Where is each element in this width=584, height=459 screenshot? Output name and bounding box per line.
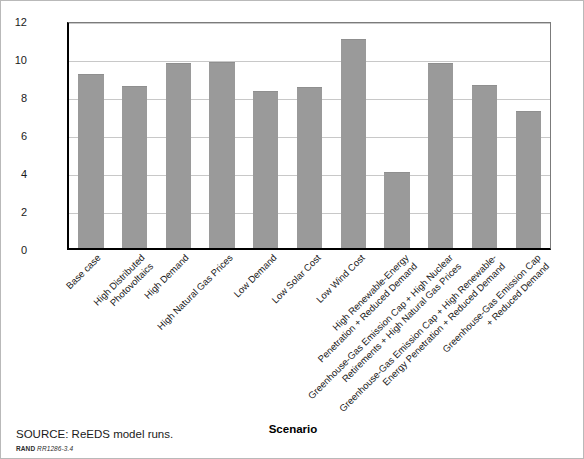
bar-slot bbox=[113, 23, 157, 248]
bar-series bbox=[69, 23, 550, 248]
figure-container: Percentage change 024681012 Base caseHig… bbox=[0, 0, 584, 459]
bar[interactable] bbox=[428, 63, 453, 248]
bar[interactable] bbox=[78, 74, 103, 248]
bar-slot bbox=[200, 23, 244, 248]
bar[interactable] bbox=[297, 87, 322, 249]
rand-report-number: RR1286-3.4 bbox=[37, 445, 73, 452]
bar[interactable] bbox=[516, 111, 541, 248]
bar-slot bbox=[69, 23, 113, 248]
plot-area bbox=[67, 22, 551, 250]
bar[interactable] bbox=[122, 86, 147, 248]
y-axis-tick-label: 10 bbox=[0, 54, 27, 66]
bar[interactable] bbox=[209, 62, 234, 248]
bar[interactable] bbox=[166, 63, 191, 248]
y-axis-tick-label: 6 bbox=[0, 130, 27, 142]
y-axis-tick-label: 0 bbox=[0, 244, 27, 256]
x-axis-tick-label: Greenhouse-Gas Emission Cap + High Nucle… bbox=[284, 252, 463, 431]
rand-document-id: RAND RR1286-3.4 bbox=[16, 445, 73, 452]
y-axis-tick-label: 12 bbox=[0, 16, 27, 28]
bar[interactable] bbox=[253, 91, 278, 248]
bar-slot bbox=[244, 23, 288, 248]
bar[interactable] bbox=[472, 85, 497, 248]
x-axis-tick-label: Greenhouse-Gas Emission Cap + High Renew… bbox=[328, 252, 507, 431]
bar-slot bbox=[375, 23, 419, 248]
y-axis-tick-label: 4 bbox=[0, 168, 27, 180]
bar[interactable] bbox=[341, 39, 366, 248]
x-axis-tick-labels: Base caseHigh Distributed PhotovoltaicsH… bbox=[67, 252, 551, 412]
x-axis-tick-label: Low Solar Cost bbox=[152, 252, 323, 423]
source-note: SOURCE: ReEDS model runs. bbox=[16, 428, 173, 440]
rand-mark: RAND bbox=[16, 445, 35, 452]
x-axis-tick-label: High Demand bbox=[20, 252, 191, 423]
bar-slot bbox=[506, 23, 550, 248]
y-axis-tick-label: 8 bbox=[0, 92, 27, 104]
bar-slot bbox=[331, 23, 375, 248]
bar-slot bbox=[156, 23, 200, 248]
bar-slot bbox=[463, 23, 507, 248]
x-axis-tick-label: High Natural Gas Prices bbox=[64, 252, 235, 423]
bar-slot bbox=[288, 23, 332, 248]
bar-slot bbox=[419, 23, 463, 248]
bar[interactable] bbox=[384, 172, 409, 248]
y-axis-tick-label: 2 bbox=[0, 206, 27, 218]
